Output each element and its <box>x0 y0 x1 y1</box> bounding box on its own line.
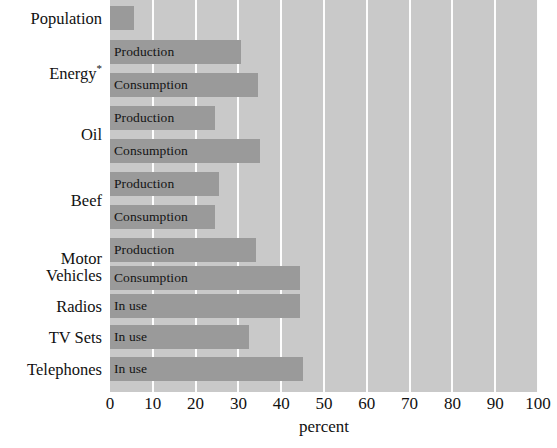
category-label: Telephones <box>27 361 102 378</box>
x-tick-label: 0 <box>106 394 115 414</box>
bar-row: Consumption <box>110 205 538 229</box>
x-tick-label: 90 <box>487 394 504 414</box>
bar-row: In use <box>110 325 538 349</box>
category-label: Beef <box>71 192 102 209</box>
bar-series-label: Production <box>114 106 174 130</box>
bar-row: Production <box>110 238 538 262</box>
x-tick-label: 50 <box>316 394 333 414</box>
category-axis-labels: PopulationEnergy*OilBeefMotorVehiclesRad… <box>0 0 106 392</box>
x-tick-label: 100 <box>525 394 551 414</box>
bar-chart: PopulationEnergy*OilBeefMotorVehiclesRad… <box>0 0 557 448</box>
category-label: Radios <box>56 298 102 315</box>
category-label: Population <box>30 10 102 27</box>
bar-series-label: In use <box>114 294 147 318</box>
x-axis-title: percent <box>110 417 538 437</box>
bar-row: Production <box>110 172 538 196</box>
x-tick-label: 70 <box>401 394 418 414</box>
bar-series-label: Consumption <box>114 205 188 229</box>
bar-series-label: In use <box>114 325 147 349</box>
category-label: Energy* <box>49 60 102 82</box>
footnote-marker: * <box>97 62 103 74</box>
x-tick-label: 40 <box>273 394 290 414</box>
bar-row: Consumption <box>110 73 538 97</box>
x-axis-tick-labels: 0102030405060708090100 <box>110 392 538 418</box>
bar-series-label: Production <box>114 172 174 196</box>
bar-row: Consumption <box>110 266 538 290</box>
bar-series-label: Consumption <box>114 139 188 163</box>
category-label: Oil <box>81 126 102 143</box>
bar-row: Production <box>110 40 538 64</box>
bar-row: Production <box>110 106 538 130</box>
bar <box>110 6 134 30</box>
x-tick-label: 30 <box>230 394 247 414</box>
bar-series-label: Production <box>114 40 174 64</box>
bar-series-label: In use <box>114 357 147 381</box>
bar-row: In use <box>110 294 538 318</box>
x-tick-label: 60 <box>358 394 375 414</box>
bar-row: Consumption <box>110 139 538 163</box>
category-label: TV Sets <box>49 329 102 346</box>
bar-series-label: Production <box>114 238 174 262</box>
bar-series-label: Consumption <box>114 266 188 290</box>
bar-series-label: Consumption <box>114 73 188 97</box>
category-label: MotorVehicles <box>46 250 102 284</box>
x-tick-label: 80 <box>444 394 461 414</box>
plot-area: ProductionConsumptionProductionConsumpti… <box>110 0 538 392</box>
bar-row <box>110 6 538 30</box>
x-tick-label: 10 <box>144 394 161 414</box>
x-tick-label: 20 <box>187 394 204 414</box>
bar-row: In use <box>110 357 538 381</box>
